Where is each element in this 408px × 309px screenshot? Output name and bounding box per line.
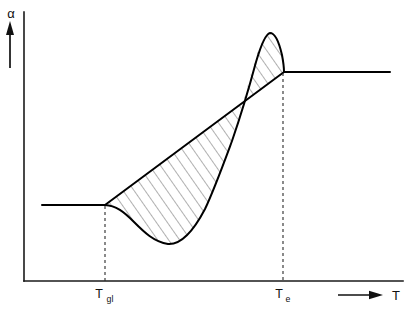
- te-label-base: T: [275, 287, 283, 301]
- tgl-label-subscript: gl: [107, 294, 114, 304]
- y-axis-label: α: [7, 6, 15, 21]
- alpha-temperature-diagram: α T T gl T e: [0, 0, 408, 309]
- tgl-label-base: T: [95, 287, 103, 301]
- te-label-subscript: e: [286, 294, 291, 304]
- x-axis-label: T: [392, 288, 400, 303]
- figure-canvas: α T T gl T e: [0, 0, 408, 309]
